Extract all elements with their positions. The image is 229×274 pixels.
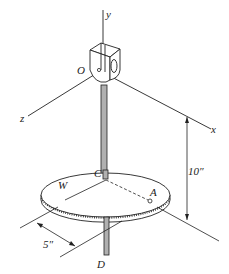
x-axis-label: x [210,123,216,135]
rod-lower [104,217,109,255]
rod-hub [103,170,108,179]
bearing-bracket [90,43,120,82]
arrow-left-icon [37,223,43,228]
height-dimension-label: 10″ [188,165,204,177]
reference-line-a [157,207,219,241]
arrow-up-icon [185,117,189,123]
point-a-marker [148,199,152,203]
disk-label: W [58,179,68,191]
z-axis-label: z [19,112,25,124]
center-label: C [94,167,102,179]
z-axis [28,73,97,116]
point-a-label: A [149,186,157,198]
offset-extension-line-2 [60,221,122,257]
offset-dimension-label: 5″ [43,238,54,250]
rod-upper [101,85,107,174]
x-axis [104,73,211,129]
bottom-label: D [96,258,105,270]
y-axis-label: y [105,8,111,20]
origin-label: O [77,64,85,76]
origin-pin [97,68,100,71]
arrow-down-icon [185,214,189,220]
arrow-right-icon [69,241,75,246]
diagram-canvas: y x z O C A W D 10″ 5″ [0,0,229,274]
